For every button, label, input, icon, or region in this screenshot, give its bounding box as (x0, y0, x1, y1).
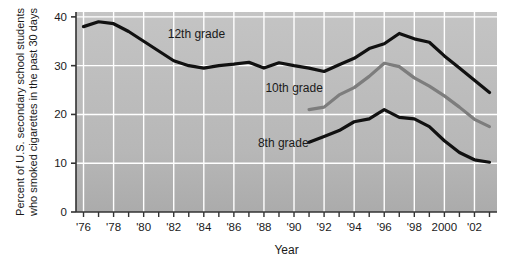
x-tick-label: '94 (347, 221, 363, 233)
x-tick-label: 2000 (432, 221, 458, 233)
x-tick-label: '02 (467, 221, 482, 233)
y-tick-label: 30 (54, 60, 67, 72)
y-axis-title-line1: Percent of U.S. secondary school student… (14, 8, 26, 216)
chart-figure: 010203040'76'78'80'82'84'86'88'90'92'94'… (0, 0, 524, 263)
series-label-12th-grade: 12th grade (168, 27, 226, 41)
series-label-10th-grade: 10th grade (265, 81, 323, 95)
y-tick-label: 40 (54, 11, 67, 23)
x-tick-label: '86 (226, 221, 241, 233)
x-tick-label: '80 (136, 221, 151, 233)
x-tick-label: '84 (196, 221, 212, 233)
x-tick-label: '88 (256, 221, 271, 233)
plot-background (76, 12, 497, 212)
x-tick-label: '92 (317, 221, 332, 233)
y-tick-label: 20 (54, 108, 67, 120)
line-chart: 010203040'76'78'80'82'84'86'88'90'92'94'… (0, 0, 524, 263)
x-tick-label: '82 (166, 221, 181, 233)
y-axis-title-line2: who smoked cigarettes in the past 30 day… (27, 8, 39, 217)
x-tick-label: '78 (106, 221, 121, 233)
series-label-8th-grade: 8th grade (258, 136, 309, 150)
y-tick-label: 10 (54, 157, 67, 169)
x-tick-label: '98 (407, 221, 422, 233)
x-tick-label: '76 (76, 221, 91, 233)
x-axis-title: Year (274, 243, 298, 257)
y-tick-label: 0 (61, 206, 67, 218)
x-tick-label: '90 (287, 221, 302, 233)
x-tick-label: '96 (377, 221, 392, 233)
